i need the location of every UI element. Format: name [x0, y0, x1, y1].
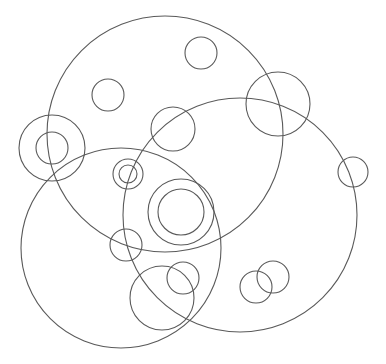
large-circle-left: [21, 148, 221, 348]
ring-small-outer: [113, 159, 143, 189]
medium-circle-bottom: [130, 266, 194, 330]
small-circle-bottom-right-a: [240, 271, 272, 303]
small-circle-right: [338, 157, 368, 187]
small-circle-bottom-right-b: [257, 261, 289, 293]
small-circle-bottom: [167, 262, 199, 294]
ring-left-inner: [36, 132, 68, 164]
medium-circle-center: [151, 107, 195, 151]
ring-left-outer: [19, 115, 85, 181]
small-circle-top: [185, 37, 217, 69]
ring-center-inner: [158, 189, 204, 235]
small-circle-top-left: [92, 79, 124, 111]
circle-diagram: [0, 0, 386, 364]
